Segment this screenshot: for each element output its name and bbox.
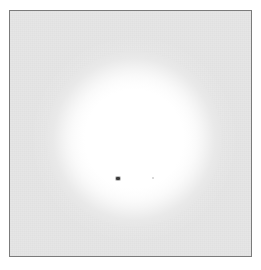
panel-noise-texture xyxy=(10,11,251,256)
faint-speck xyxy=(152,177,154,179)
image-panel xyxy=(9,10,252,257)
center-marker xyxy=(116,177,120,180)
outer-skirt-halo xyxy=(30,35,238,243)
diffuse-glow-source xyxy=(46,51,222,227)
figure-root xyxy=(0,0,261,270)
